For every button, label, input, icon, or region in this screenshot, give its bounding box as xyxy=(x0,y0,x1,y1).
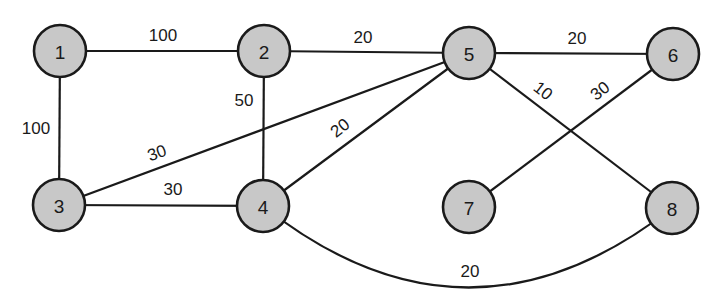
edge-5-6 xyxy=(469,53,673,54)
edge-weight-5-6: 20 xyxy=(568,29,587,48)
node-label: 4 xyxy=(258,197,269,218)
node-6: 6 xyxy=(647,28,699,80)
edge-weight-2-5: 20 xyxy=(354,28,373,47)
edge-4-5 xyxy=(263,53,469,206)
node-8: 8 xyxy=(646,182,698,234)
node-label: 8 xyxy=(667,199,678,220)
node-label: 6 xyxy=(668,45,679,66)
edges-layer xyxy=(59,51,673,288)
node-5: 5 xyxy=(443,27,495,79)
node-label: 2 xyxy=(259,42,270,63)
node-label: 3 xyxy=(54,196,65,217)
node-7: 7 xyxy=(443,181,495,233)
edge-2-5 xyxy=(264,51,469,53)
edge-3-4 xyxy=(59,205,263,206)
edge-weight-6-7: 30 xyxy=(587,78,614,105)
node-label: 7 xyxy=(464,198,475,219)
edge-weight-1-3: 100 xyxy=(22,119,50,138)
node-label: 1 xyxy=(55,42,66,63)
edge-weight-4-8: 20 xyxy=(461,262,480,281)
edge-weight-1-2: 100 xyxy=(149,26,177,45)
edge-weight-3-4: 30 xyxy=(164,180,183,199)
node-2: 2 xyxy=(238,25,290,77)
edge-weight-5-8: 10 xyxy=(530,78,557,105)
node-label: 5 xyxy=(464,44,475,65)
node-1: 1 xyxy=(34,25,86,77)
edge-weight-3-5: 30 xyxy=(145,141,169,165)
node-3: 3 xyxy=(33,179,85,231)
edge-weight-4-5: 20 xyxy=(327,115,354,142)
node-4: 4 xyxy=(237,180,289,232)
edge-weight-2-4: 50 xyxy=(235,91,254,110)
graph-diagram: 100100205030302020103020 12345678 xyxy=(0,0,717,308)
